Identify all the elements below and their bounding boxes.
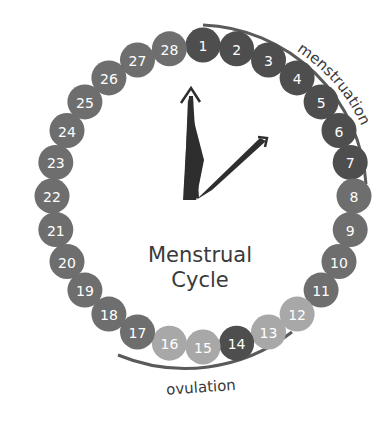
day-number: 16: [160, 336, 178, 352]
menstrual-cycle-diagram: menstruation ovulation 12345678910111213…: [0, 0, 387, 426]
day-number: 23: [47, 155, 65, 171]
day-20-marker: 20: [50, 244, 85, 279]
day-15-marker: 15: [186, 330, 221, 365]
day-27-marker: 27: [120, 43, 155, 78]
day-number: 5: [317, 95, 326, 111]
day-14-marker: 14: [219, 326, 254, 361]
day-number: 13: [260, 325, 278, 341]
day-1-marker: 1: [186, 28, 221, 63]
day-number: 17: [129, 325, 147, 341]
day-number: 10: [330, 255, 348, 271]
day-22-marker: 22: [35, 179, 70, 214]
day-number: 15: [194, 340, 212, 356]
day-2-marker: 2: [219, 31, 254, 66]
day-number: 22: [43, 189, 61, 205]
day-number: 9: [346, 223, 355, 239]
title-line-2: Cycle: [171, 268, 228, 292]
day-number: 27: [129, 53, 147, 69]
day-23-marker: 23: [38, 145, 73, 180]
day-number: 4: [293, 71, 302, 87]
day-number: 26: [100, 71, 118, 87]
ovulation-label: ovulation: [166, 376, 237, 399]
day-number: 24: [58, 124, 76, 140]
day-number: 7: [346, 155, 355, 171]
clock-hands: [181, 88, 267, 200]
day-number: 11: [312, 283, 330, 299]
day-number: 25: [76, 95, 94, 111]
day-number: 28: [160, 42, 178, 58]
title-line-1: Menstrual: [148, 243, 252, 267]
day-6-marker: 6: [322, 113, 357, 148]
day-16-marker: 16: [152, 326, 187, 361]
day-number: 21: [47, 223, 65, 239]
day-number: 6: [335, 124, 344, 140]
day-7-marker: 7: [333, 145, 368, 180]
day-28-marker: 28: [152, 31, 187, 66]
day-number: 14: [228, 336, 246, 352]
day-21-marker: 21: [38, 212, 73, 247]
day-number: 19: [76, 283, 94, 299]
day-number: 8: [350, 189, 359, 205]
day-13-marker: 13: [251, 315, 286, 350]
day-number: 3: [264, 53, 273, 69]
day-number: 2: [232, 42, 241, 58]
day-8-marker: 8: [337, 179, 372, 214]
day-number: 12: [288, 307, 306, 323]
day-number: 18: [100, 307, 118, 323]
hour-hand-short: [196, 138, 266, 200]
day-9-marker: 9: [333, 212, 368, 247]
day-number: 1: [199, 38, 208, 54]
day-number: 20: [58, 255, 76, 271]
